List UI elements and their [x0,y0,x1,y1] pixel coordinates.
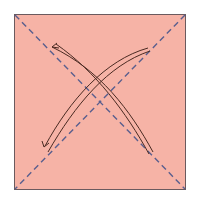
origami-diagram [0,0,198,201]
